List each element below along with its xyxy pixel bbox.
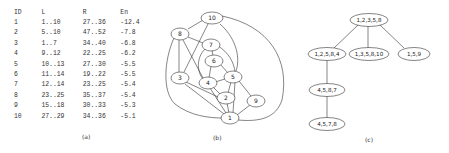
cell-en: -5.5 [120, 59, 150, 69]
graph-node-2: 2 [217, 92, 235, 104]
cell-en: -6.8 [120, 38, 150, 48]
cell-en: -5.5 [120, 69, 150, 79]
svg-text:8: 8 [178, 30, 182, 37]
tree-canvas: 1,2,3,5,8 1,2,5,8,4 1,3,5,8,10 1,5,9 4,5… [290, 0, 449, 153]
cell-l: 5..10 [41, 28, 82, 38]
edge-7-4 [198, 49, 205, 79]
cell-en: -5.4 [120, 80, 150, 90]
table-row: 8 23..25 35..37 -5.4 [14, 90, 150, 100]
graph-node-7: 7 [202, 39, 220, 51]
svg-text:7: 7 [209, 41, 213, 48]
cell-en: -5.3 [120, 101, 150, 111]
cell-id: 6 [14, 69, 41, 79]
table-row: 7 12..14 23..25 -5.4 [14, 80, 150, 90]
cell-id: 5 [14, 59, 41, 69]
cell-en: -12.4 [120, 17, 150, 27]
cell-id: 1 [14, 17, 41, 27]
cell-en: -7.8 [120, 28, 150, 38]
table-row: 1 1..10 27..36 -12.4 [14, 17, 150, 27]
edge-5-9 [239, 81, 251, 96]
cell-l: 23..25 [41, 90, 82, 100]
svg-text:4: 4 [206, 79, 210, 86]
cell-r: 23..25 [83, 80, 121, 90]
graph-node-4: 4 [199, 77, 217, 89]
graph-node-1: 1 [221, 112, 239, 124]
graph-node-3: 3 [171, 72, 189, 84]
cell-l: 27..29 [41, 111, 82, 121]
cell-l: 1..10 [41, 17, 82, 27]
tree-edges [327, 25, 404, 118]
column-header-r: R [83, 7, 121, 17]
cell-r: 27..36 [83, 17, 121, 27]
panel-c-tree: 1,2,3,5,8 1,2,5,8,4 1,3,5,8,10 1,5,9 4,5… [290, 0, 449, 153]
tree-edge-root-c3 [380, 25, 404, 48]
graph-nodes: 10 8 7 6 3 4 5 [171, 12, 265, 124]
column-header-en: En [120, 7, 150, 17]
tree-node-c5: 4,5,7,8 [309, 118, 345, 131]
table-row: 3 1..7 34..40 -6.8 [14, 38, 150, 48]
svg-text:4,5,8,7: 4,5,8,7 [317, 87, 337, 93]
cell-l: 1..7 [41, 38, 82, 48]
cell-id: 2 [14, 28, 41, 38]
svg-text:4,5,7,8: 4,5,7,8 [317, 121, 337, 127]
cell-r: 22..25 [83, 49, 121, 59]
edge-2-1 [227, 103, 229, 113]
caption-c: (c) [365, 136, 373, 143]
column-header-id: ID [14, 7, 41, 17]
caption-a: (a) [82, 133, 90, 140]
cell-id: 7 [14, 80, 41, 90]
graph-node-9: 9 [247, 95, 265, 107]
svg-text:2: 2 [224, 94, 228, 101]
tree-edge-root-c1 [334, 25, 358, 48]
cell-r: 47..52 [83, 28, 121, 38]
cell-en: -5.1 [120, 111, 150, 121]
cell-en: -5.4 [120, 90, 150, 100]
table-row: 9 15..18 30..33 -5.3 [14, 101, 150, 111]
svg-text:1,2,3,5,8: 1,2,3,5,8 [357, 17, 382, 23]
edge-5-2 [228, 82, 231, 93]
cell-id: 10 [14, 111, 41, 121]
panel-a-table: ID L R En 1 1..10 27..36 -12.4 2 5..10 4… [0, 0, 150, 153]
table-row: 6 11..14 19..22 -5.5 [14, 69, 150, 79]
edge-6-5 [220, 64, 228, 73]
cell-l: 12..14 [41, 80, 82, 90]
cell-l: 15..18 [41, 101, 82, 111]
cell-id: 3 [14, 38, 41, 48]
svg-text:1: 1 [228, 114, 232, 121]
table-row: 10 27..29 34..36 -5.1 [14, 111, 150, 121]
cell-r: 34..40 [83, 38, 121, 48]
cell-l: 10..13 [41, 59, 82, 69]
table-header-row: ID L R En [14, 7, 150, 17]
cell-r: 34..36 [83, 111, 121, 121]
cell-r: 19..22 [83, 69, 121, 79]
tree-node-c3: 1,5,9 [398, 48, 430, 61]
table-row: 2 5..10 47..52 -7.8 [14, 28, 150, 38]
svg-text:5: 5 [231, 73, 235, 80]
cell-l: 9..12 [41, 49, 82, 59]
caption-b: (b) [213, 134, 222, 141]
svg-text:3: 3 [178, 74, 182, 81]
graph-canvas: 10 8 7 6 3 4 5 [150, 0, 290, 153]
svg-text:1,3,5,8,10: 1,3,5,8,10 [355, 51, 384, 57]
tree-nodes: 1,2,3,5,8 1,2,5,8,4 1,3,5,8,10 1,5,9 4,5… [308, 14, 430, 131]
tree-node-c2: 1,3,5,8,10 [349, 48, 389, 61]
interval-table: ID L R En 1 1..10 27..36 -12.4 2 5..10 4… [14, 7, 150, 121]
cell-r: 35..37 [83, 90, 121, 100]
cell-id: 4 [14, 49, 41, 59]
svg-text:1,5,9: 1,5,9 [407, 51, 422, 57]
svg-text:6: 6 [212, 57, 216, 64]
panel-b-graph: 10 8 7 6 3 4 5 [150, 0, 290, 153]
cell-r: 30..33 [83, 101, 121, 111]
cell-id: 8 [14, 90, 41, 100]
edge-6-4 [209, 66, 211, 78]
edge-9-1 [237, 105, 250, 115]
edge-10-8 [188, 20, 203, 29]
cell-r: 27..30 [83, 59, 121, 69]
graph-node-5: 5 [224, 71, 242, 83]
edge-8-4 [183, 40, 203, 78]
graph-node-6: 6 [205, 55, 223, 67]
column-header-l: L [41, 7, 82, 17]
table-row: 4 9..12 22..25 -6.2 [14, 49, 150, 59]
cell-en: -6.2 [120, 49, 150, 59]
svg-text:10: 10 [208, 14, 216, 21]
